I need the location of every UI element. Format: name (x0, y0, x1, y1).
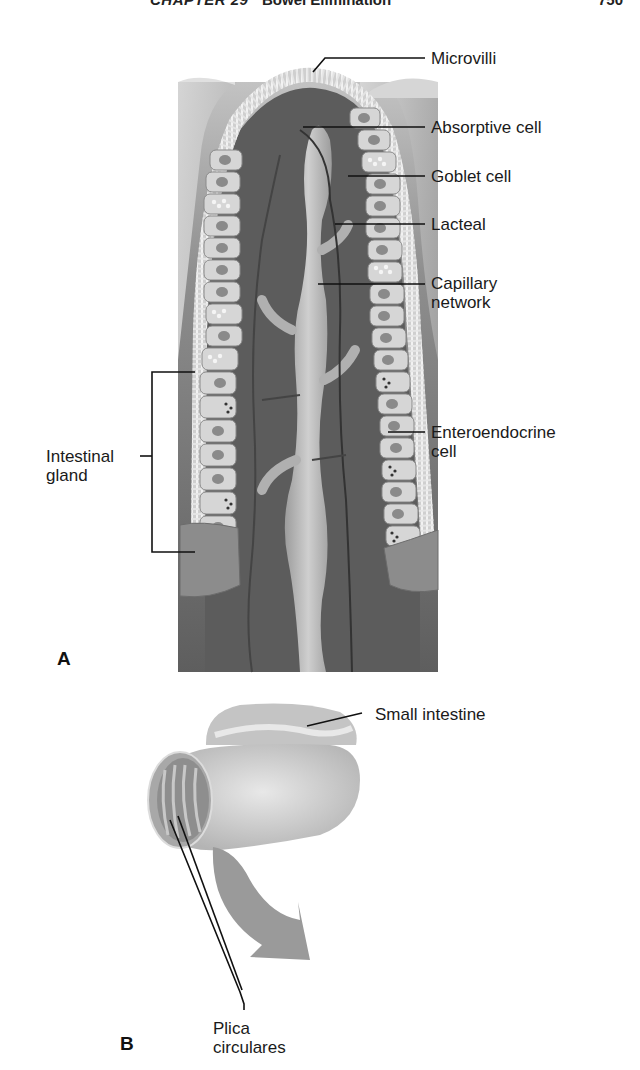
label-enteroendocrine-line1: Enteroendocrine (431, 423, 556, 442)
label-intestinal-gland-line2: gland (46, 466, 114, 485)
label-intestinal-gland-line1: Intestinal (46, 447, 114, 466)
label-absorptive-cell: Absorptive cell (431, 118, 542, 137)
label-capillary-line1: Capillary (431, 274, 497, 293)
label-lacteal: Lacteal (431, 215, 486, 234)
panel-letter-a: A (57, 648, 71, 670)
small-intestine-illustration (148, 704, 360, 851)
label-small-intestine: Small intestine (375, 705, 486, 724)
label-intestinal-gland: Intestinal gland (46, 447, 114, 485)
label-goblet-cell: Goblet cell (431, 167, 511, 186)
label-plica-circulares: Plica circulares (213, 1019, 286, 1057)
magnification-arrow (213, 847, 310, 960)
label-plica-line2: circulares (213, 1038, 286, 1057)
panel-letter-b: B (120, 1033, 134, 1055)
label-plica-line1: Plica (213, 1019, 286, 1038)
label-enteroendocrine-cell: Enteroendocrine cell (431, 423, 556, 461)
intestinal-villus-figure (0, 0, 640, 1070)
label-capillary-network: Capillary network (431, 274, 497, 312)
label-microvilli: Microvilli (431, 49, 496, 68)
label-enteroendocrine-line2: cell (431, 442, 556, 461)
villus-panel (178, 62, 438, 672)
label-capillary-line2: network (431, 293, 497, 312)
